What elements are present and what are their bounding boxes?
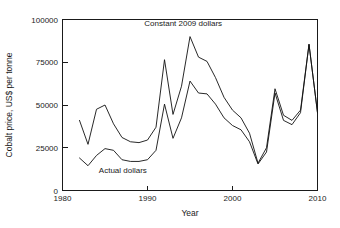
x-axis-title: Year bbox=[181, 208, 198, 218]
y-axis-tick-labels: 100000 75000 50000 25000 0 bbox=[31, 16, 58, 196]
cobalt-price-chart-figure: 100000 75000 50000 25000 0 1980 1990 200… bbox=[0, 0, 340, 228]
series-line-actual-dollars bbox=[80, 44, 318, 165]
x-tick-label-1990: 1990 bbox=[139, 194, 157, 203]
x-axis-tick-labels: 1980 1990 2000 2010 bbox=[54, 194, 327, 203]
x-axis-ticks bbox=[63, 186, 318, 191]
series-lines bbox=[80, 37, 318, 166]
annotation-constant-2009-dollars: Constant 2009 dollars bbox=[144, 19, 222, 28]
y-axis-ticks bbox=[63, 20, 68, 191]
chart-annotations: Constant 2009 dollars Actual dollars bbox=[99, 19, 222, 174]
y-tick-label-100000: 100000 bbox=[31, 16, 58, 25]
y-tick-label-75000: 75000 bbox=[36, 58, 59, 67]
chart-canvas: 100000 75000 50000 25000 0 1980 1990 200… bbox=[0, 0, 340, 228]
y-tick-label-25000: 25000 bbox=[36, 144, 59, 153]
x-tick-label-2000: 2000 bbox=[224, 194, 242, 203]
series-line-constant-2009-dollars bbox=[80, 37, 318, 164]
y-tick-label-50000: 50000 bbox=[36, 101, 59, 110]
y-axis-title: Cobalt price, US$ per tonne bbox=[4, 52, 14, 157]
x-tick-label-2010: 2010 bbox=[309, 194, 327, 203]
annotation-actual-dollars: Actual dollars bbox=[99, 166, 147, 175]
x-tick-label-1980: 1980 bbox=[54, 194, 72, 203]
